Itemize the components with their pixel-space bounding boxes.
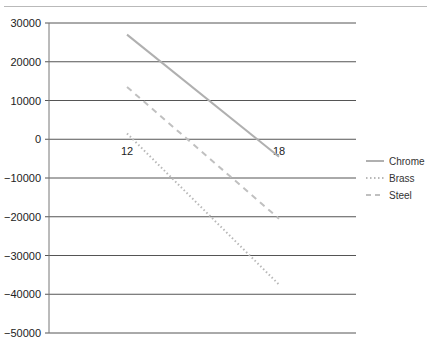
series-lines — [127, 35, 279, 285]
y-tick-label: −10000 — [4, 172, 41, 184]
legend-label-chrome: Chrome — [389, 156, 425, 167]
series-line-steel — [127, 87, 279, 219]
x-tick-label: 12 — [121, 145, 133, 157]
series-line-brass — [127, 133, 279, 284]
y-tick-label: 30000 — [10, 17, 41, 29]
line-chart: 3000020000100000−10000−20000−30000−40000… — [0, 0, 427, 341]
gridlines — [45, 23, 356, 333]
y-tick-label: −30000 — [4, 250, 41, 262]
y-tick-label: 20000 — [10, 56, 41, 68]
y-tick-label: 10000 — [10, 95, 41, 107]
y-tick-label: −50000 — [4, 327, 41, 339]
series-line-chrome — [127, 35, 279, 157]
legend-label-steel: Steel — [389, 190, 412, 201]
y-tick-label: 0 — [35, 133, 41, 145]
legend-label-brass: Brass — [389, 173, 415, 184]
x-axis-ticks: 1218 — [121, 145, 285, 157]
legend: ChromeBrassSteel — [366, 156, 425, 201]
y-tick-label: −20000 — [4, 211, 41, 223]
y-axis-ticks: 3000020000100000−10000−20000−30000−40000… — [4, 17, 41, 339]
y-tick-label: −40000 — [4, 288, 41, 300]
